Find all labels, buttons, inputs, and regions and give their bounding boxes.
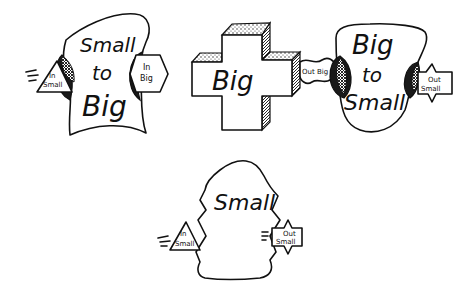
bts-label-line-3: Small — [344, 90, 405, 115]
big-node: Big — [192, 23, 300, 130]
stb-label-line-3: Big — [82, 90, 127, 123]
big-label: Big — [212, 66, 254, 96]
stb-in-label-1: In — [49, 72, 56, 80]
bts-label-line-1: Big — [352, 30, 394, 60]
adapter-diagram: Small to Big In Small In Big Big Out Big — [0, 0, 476, 303]
stb-out-label-1: In — [143, 63, 150, 72]
big-to-small-node: Big to Small — [330, 24, 427, 132]
motion-lines-icon — [158, 236, 170, 246]
small-out-label-2: Small — [276, 238, 295, 246]
bts-out-port: Out Small — [418, 64, 452, 102]
bts-label-line-2: to — [362, 63, 382, 87]
big-out-label: Out Big — [302, 68, 328, 76]
stb-label-line-2: to — [92, 61, 112, 85]
cross-right-side — [292, 52, 300, 96]
stb-out-port: In Big — [130, 55, 168, 92]
motion-lines-icon — [26, 70, 38, 81]
bts-out-label-1: Out — [428, 76, 441, 84]
cross-left-arm-top — [192, 53, 222, 62]
small-in-label-2: Small — [175, 240, 194, 248]
bts-out-label-2: Small — [421, 85, 440, 93]
small-node: Small — [196, 161, 280, 280]
small-in-label-1: In — [180, 230, 187, 238]
stb-label-line-1: Small — [80, 33, 136, 57]
small-out-label-1: Out — [283, 230, 296, 238]
small-label: Small — [214, 190, 275, 215]
stb-out-label-2: Big — [140, 74, 153, 83]
stb-in-label-2: Small — [43, 81, 62, 89]
small-in-port: In Small — [158, 222, 200, 250]
small-body — [196, 161, 280, 280]
